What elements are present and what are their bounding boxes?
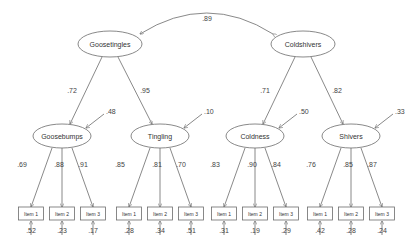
- factor-label: Goosetingles: [90, 41, 131, 49]
- error-variance: .28: [346, 227, 356, 234]
- indicator-loading: .91: [78, 161, 88, 168]
- structural-loading: .95: [140, 87, 150, 94]
- factor-label: Tingling: [148, 133, 172, 141]
- indicator-loading-arrow: [224, 148, 245, 207]
- error-variance: .28: [124, 227, 134, 234]
- indicator-label: Item 1: [313, 211, 327, 217]
- indicator-loading: .81: [152, 161, 162, 168]
- correlation-value: .89: [202, 15, 212, 22]
- error-variance: .52: [26, 227, 36, 234]
- residual-value: .33: [395, 108, 405, 115]
- residual-value: .48: [106, 108, 116, 115]
- indicator-loading: .88: [54, 161, 64, 168]
- indicator-label: Item 2: [344, 211, 358, 217]
- error-variance: .29: [281, 227, 291, 234]
- indicator-label: Item 1: [122, 211, 136, 217]
- indicator-label: Item 2: [248, 211, 262, 217]
- indicator-loading: .83: [210, 161, 220, 168]
- indicator-label: Item 2: [153, 211, 167, 217]
- error-variance: .31: [219, 227, 229, 234]
- indicator-label: Item 3: [184, 211, 198, 217]
- error-variance: .23: [57, 227, 67, 234]
- indicator-loading-arrow: [31, 148, 52, 207]
- indicator-label: Item 1: [24, 211, 38, 217]
- indicator-loading-arrow: [320, 148, 341, 207]
- indicator-loading-arrow: [265, 148, 286, 207]
- structural-loading: .82: [332, 87, 342, 94]
- indicator-loading: .70: [176, 161, 186, 168]
- sem-diagram: .89.72.95Goosetingles.71.82Coldshivers.4…: [0, 0, 420, 237]
- indicator-loading-arrow: [72, 148, 93, 207]
- residual-arrow: [86, 114, 104, 128]
- structural-loading: .71: [260, 87, 270, 94]
- indicator-label: Item 2: [55, 211, 69, 217]
- error-variance: .19: [250, 227, 260, 234]
- error-variance: .24: [377, 227, 387, 234]
- factor-label: Goosebumps: [41, 133, 83, 141]
- error-variance: .51: [186, 227, 196, 234]
- indicator-loading-arrow: [170, 148, 191, 207]
- factor-label: Coldshivers: [285, 41, 322, 48]
- indicator-loading: .85: [115, 161, 125, 168]
- indicator-label: Item 3: [375, 211, 389, 217]
- factor-label: Coldness: [240, 133, 270, 140]
- indicator-loading: .90: [247, 161, 257, 168]
- error-variance: .42: [315, 227, 325, 234]
- indicator-loading: .76: [306, 161, 316, 168]
- residual-arrow: [375, 114, 393, 128]
- indicator-label: Item 3: [279, 211, 293, 217]
- error-variance: .34: [155, 227, 165, 234]
- residual-arrow: [279, 114, 297, 128]
- residual-value: .10: [204, 108, 214, 115]
- factor-label: Shivers: [339, 133, 363, 140]
- residual-arrow: [184, 114, 202, 128]
- indicator-loading: .84: [271, 161, 281, 168]
- indicator-loading: .87: [367, 161, 377, 168]
- indicator-loading: .85: [343, 161, 353, 168]
- structural-loading: .72: [67, 87, 77, 94]
- indicator-label: Item 1: [217, 211, 231, 217]
- residual-value: .50: [299, 108, 309, 115]
- indicator-loading: .69: [17, 161, 27, 168]
- indicator-label: Item 3: [86, 211, 100, 217]
- indicator-loading-arrow: [361, 148, 382, 207]
- error-variance: .17: [88, 227, 98, 234]
- indicator-loading-arrow: [129, 148, 150, 207]
